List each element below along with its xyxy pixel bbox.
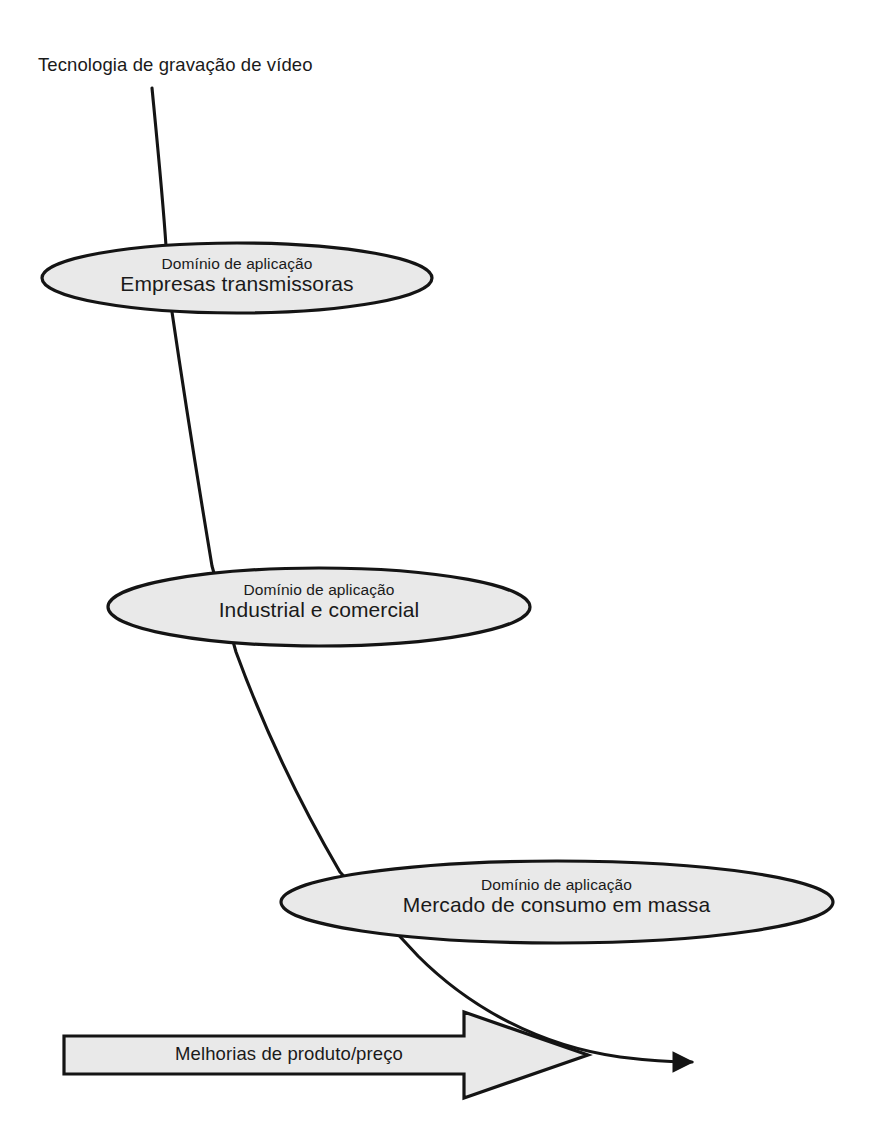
node-ellipse-broadcast [42,243,432,313]
node-ellipse-mass-market [281,861,833,943]
diagram-graphics [0,0,877,1131]
band-arrow-label: Melhorias de produto/preço [64,1043,514,1065]
root-technology-label: Tecnologia de gravação de vídeo [38,54,313,76]
diagram-canvas: Tecnologia de gravação de vídeo Domínio … [0,0,877,1131]
node-ellipse-industrial [108,568,530,646]
